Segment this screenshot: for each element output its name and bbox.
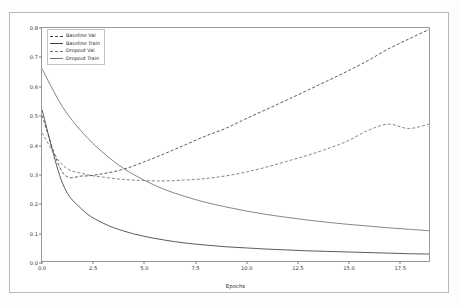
x-tick-label: 0.0	[38, 265, 46, 271]
legend: Baseline ValBaseline TrainDropout ValDro…	[47, 29, 105, 65]
x-tick-mark	[144, 261, 145, 264]
series-line	[42, 110, 429, 254]
legend-line-icon	[50, 40, 63, 46]
y-tick-label: 0.0	[30, 260, 38, 266]
legend-item-label: Dropout Val	[66, 48, 95, 53]
y-tick-mark	[39, 233, 42, 234]
x-tick-label: 10.0	[241, 265, 253, 271]
y-tick-mark	[39, 86, 42, 87]
x-tick-mark	[93, 261, 94, 264]
y-tick-mark	[39, 116, 42, 117]
x-tick-mark	[195, 261, 196, 264]
legend-item[interactable]: Baseline Val	[50, 32, 100, 40]
y-tick-label: 0.1	[30, 231, 38, 237]
y-tick-mark	[39, 28, 42, 29]
y-tick-label: 0.3	[30, 172, 38, 178]
y-tick-label: 0.6	[30, 84, 38, 90]
x-tick-mark	[42, 261, 43, 264]
y-tick-label: 0.7	[30, 54, 38, 60]
legend-line-icon	[50, 48, 63, 54]
legend-item[interactable]: Dropout Val	[50, 47, 100, 55]
x-tick-mark	[297, 261, 298, 264]
y-tick-label: 0.2	[30, 201, 38, 207]
x-tick-label: 5.0	[140, 265, 148, 271]
y-tick-label: 0.5	[30, 113, 38, 119]
chart-screenshot: Binary Crossentropy Epochs 0.00.10.20.30…	[0, 0, 459, 305]
y-tick-mark	[39, 174, 42, 175]
x-tick-mark	[349, 261, 350, 264]
legend-item[interactable]: Baseline Train	[50, 40, 100, 48]
x-tick-label: 17.5	[395, 265, 407, 271]
series-line	[42, 69, 429, 231]
y-tick-mark	[39, 57, 42, 58]
legend-item-label: Baseline Train	[66, 41, 100, 46]
legend-item-label: Baseline Val	[66, 33, 96, 38]
x-tick-mark	[400, 261, 401, 264]
x-tick-label: 12.5	[292, 265, 304, 271]
x-tick-label: 7.5	[191, 265, 199, 271]
legend-item[interactable]: Dropout Train	[50, 55, 100, 63]
y-tick-mark	[39, 145, 42, 146]
x-axis-label: Epochs	[41, 283, 430, 289]
y-tick-label: 0.4	[30, 143, 38, 149]
legend-line-icon	[50, 55, 63, 61]
x-tick-label: 2.5	[89, 265, 97, 271]
y-tick-label: 0.8	[30, 25, 38, 31]
legend-item-label: Dropout Train	[66, 56, 99, 61]
x-tick-label: 15.0	[343, 265, 355, 271]
y-tick-mark	[39, 204, 42, 205]
series-line	[42, 124, 429, 181]
x-tick-mark	[246, 261, 247, 264]
legend-line-icon	[50, 33, 63, 39]
